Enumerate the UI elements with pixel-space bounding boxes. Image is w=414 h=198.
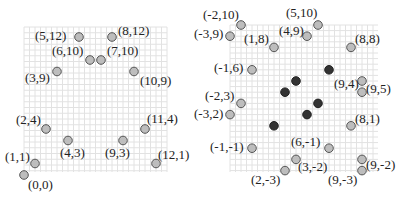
point-label: (2,-3) <box>251 172 280 187</box>
point-marker <box>53 67 62 76</box>
point-marker <box>42 125 51 134</box>
point-marker <box>358 155 367 164</box>
point-marker <box>358 77 367 86</box>
point-label: (8,12) <box>118 23 149 38</box>
point-label: (0,0) <box>28 177 53 192</box>
dark-point-marker <box>303 110 312 119</box>
point-label: (-1,-1) <box>210 139 244 154</box>
point-label: (1,8) <box>244 31 269 46</box>
dark-point-marker <box>270 122 279 131</box>
point-label: (-3,9) <box>194 26 223 41</box>
point-label: (-1,6) <box>214 60 243 75</box>
point-marker <box>347 43 356 52</box>
point-label: (11,4) <box>147 111 178 126</box>
point-marker <box>86 56 95 65</box>
point-marker <box>270 43 279 52</box>
point-marker <box>226 110 235 119</box>
point-marker <box>108 33 117 42</box>
point-label: (9,3) <box>105 145 130 160</box>
point-label: (10,9) <box>140 73 171 88</box>
point-label: (6,-1) <box>291 134 320 149</box>
point-label: (1,1) <box>5 149 30 164</box>
point-label: (-2,3) <box>205 88 234 103</box>
dark-point-marker <box>281 88 290 97</box>
left-grid <box>24 27 167 172</box>
point-marker <box>325 144 334 153</box>
point-marker <box>31 159 40 168</box>
point-label: (3,-2) <box>298 159 327 174</box>
point-label: (9,-3) <box>328 172 357 187</box>
point-marker <box>358 166 367 175</box>
point-label: (-3,2) <box>194 106 223 121</box>
point-marker <box>64 136 73 145</box>
point-label: (4,3) <box>60 145 85 160</box>
left-scatter-panel: (5,12)(8,12)(6,10)(7,10)(3,9)(10,9)(2,4)… <box>5 23 189 192</box>
point-marker <box>75 33 84 42</box>
point-marker <box>358 88 367 97</box>
point-marker <box>248 144 257 153</box>
point-marker <box>226 32 235 41</box>
point-label: (9,-2) <box>366 157 395 172</box>
dark-point-marker <box>292 77 301 86</box>
point-marker <box>314 21 323 30</box>
point-label: (8,1) <box>355 111 380 126</box>
dark-point-marker <box>325 66 334 75</box>
point-label: (8,8) <box>355 31 380 46</box>
point-label: (3,9) <box>25 70 50 85</box>
point-label: (5,12) <box>35 28 66 43</box>
scatter-diagrams: (5,12)(8,12)(6,10)(7,10)(3,9)(10,9)(2,4)… <box>0 0 414 198</box>
dark-point-marker <box>314 99 323 108</box>
point-marker <box>20 171 29 180</box>
point-marker <box>281 166 290 175</box>
point-label: (12,1) <box>158 147 189 162</box>
point-label: (6,10) <box>52 43 83 58</box>
point-label: (9,5) <box>366 81 391 96</box>
right-scatter-panel: (-2,10)(-3,9)(1,8)(4,9)(5,10)(8,8)(-1,6)… <box>194 5 395 187</box>
point-marker <box>130 67 139 76</box>
point-marker <box>347 122 356 131</box>
point-label: (2,4) <box>16 112 41 127</box>
point-marker <box>248 66 257 75</box>
point-marker <box>119 136 128 145</box>
point-label: (-2,10) <box>203 7 239 22</box>
point-marker <box>237 99 246 108</box>
right-points: (-2,10)(-3,9)(1,8)(4,9)(5,10)(8,8)(-1,6)… <box>194 5 395 187</box>
point-label: (7,10) <box>107 43 138 58</box>
point-label: (9,4) <box>334 76 359 91</box>
point-marker <box>97 56 106 65</box>
point-marker <box>303 32 312 41</box>
point-label: (4,9) <box>279 23 304 38</box>
point-label: (5,10) <box>286 5 317 20</box>
